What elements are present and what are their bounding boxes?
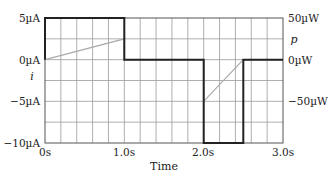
current-power-chart: 5µA 0µA i −5µA −10µA 50µW p 0µW −50µW 0s… bbox=[0, 0, 331, 178]
x-tick-3: 3.0s bbox=[272, 146, 294, 158]
x-axis-title: Time bbox=[150, 160, 178, 173]
y-left-tick-0: 0µA bbox=[19, 54, 41, 66]
x-tick-0: 0s bbox=[39, 146, 51, 158]
x-tick-1: 1.0s bbox=[113, 146, 135, 158]
y-left-variable-label: i bbox=[30, 70, 34, 83]
x-tick-2: 2.0s bbox=[192, 146, 214, 158]
y-left-tick-5: 5µA bbox=[19, 12, 41, 24]
y-right-tick-m50: −50µW bbox=[288, 95, 328, 107]
y-left-tick-m5: −5µA bbox=[10, 95, 40, 107]
y-right-tick-50: 50µW bbox=[288, 12, 319, 24]
y-right-variable-label: p bbox=[290, 33, 297, 46]
grid-lines bbox=[45, 18, 283, 143]
power-series-line bbox=[45, 39, 283, 102]
y-right-tick-0: 0µW bbox=[288, 54, 313, 66]
y-left-tick-m10: −10µA bbox=[3, 137, 40, 149]
